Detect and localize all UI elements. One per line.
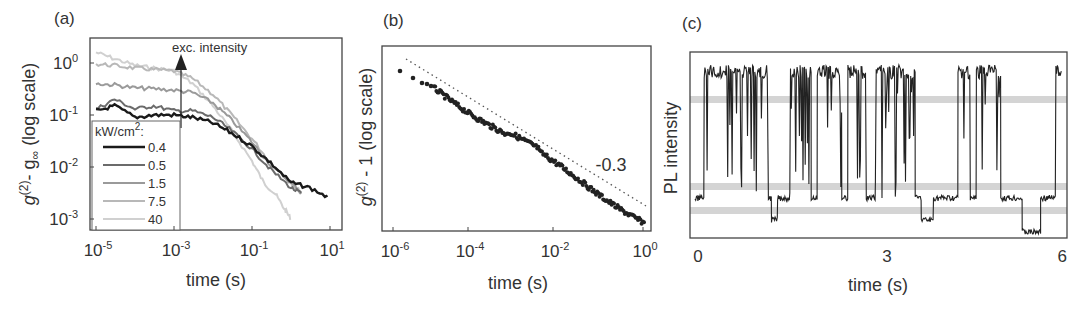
- slope-annotation: -0.3: [595, 155, 626, 175]
- tick-label: 10-1: [49, 104, 78, 125]
- x-axis-label-c: time (s): [848, 275, 908, 295]
- arrow-head-icon: [175, 54, 187, 70]
- legend-label-7.5: 7.5: [148, 194, 166, 209]
- threshold-band-mid: [690, 183, 1067, 190]
- data-point: [514, 132, 518, 136]
- y-axis-label-c: PL intensity: [661, 102, 681, 194]
- tick-label: 10-6: [381, 240, 410, 261]
- y-axis-label-b: g(2) - 1 (log scale): [354, 68, 376, 207]
- tick-label: 10-4: [456, 240, 485, 261]
- data-point: [456, 102, 460, 106]
- tick-label: 100: [632, 240, 657, 261]
- data-point: [545, 153, 549, 157]
- tick-label: 10-5: [84, 239, 113, 260]
- legend-label-0.5: 0.5: [148, 158, 166, 173]
- tick-label: 100: [53, 52, 78, 73]
- tick-label: 10-2: [49, 156, 78, 177]
- panel-label-a: (a): [54, 9, 75, 29]
- threshold-band-low: [690, 207, 1067, 214]
- data-point: [553, 159, 557, 163]
- legend-label-0.4: 0.4: [148, 140, 166, 155]
- x-axis-label-b: time (s): [488, 273, 548, 293]
- panel-label-b: (b): [383, 11, 404, 31]
- data-point: [583, 181, 587, 185]
- legend-label-1.5: 1.5: [148, 176, 166, 191]
- tick-label: 101: [319, 239, 344, 260]
- exc-intensity-annotation: exc. intensity: [172, 40, 248, 55]
- tick-label: 10-1: [240, 239, 269, 260]
- data-point: [487, 122, 491, 126]
- tick-label: 6: [1058, 247, 1067, 266]
- panel-label-c: (c): [682, 14, 702, 34]
- data-point: [642, 220, 646, 224]
- slope-guide-line: [406, 59, 646, 206]
- tick-label: 3: [882, 247, 891, 266]
- data-point: [462, 107, 466, 111]
- tick-label: 0: [693, 247, 702, 266]
- x-axis-label-a: time (s): [186, 270, 246, 290]
- legend-label-40: 40: [148, 212, 162, 227]
- data-point: [564, 167, 568, 171]
- data-point: [600, 193, 604, 197]
- data-point: [433, 85, 437, 89]
- figure: exc. intensitykW/cm2:0.40.51.57.540time …: [0, 0, 1089, 313]
- panel-c: time (s)PL intensity: [661, 52, 1067, 295]
- data-point: [560, 164, 564, 168]
- tick-label: 10-2: [541, 240, 570, 261]
- tick-label: 10-3: [162, 239, 191, 260]
- tick-label: 10-3: [49, 208, 78, 229]
- y-axis-label-a: g(2)- g∞ (log scale): [17, 63, 42, 205]
- data-point: [612, 201, 616, 205]
